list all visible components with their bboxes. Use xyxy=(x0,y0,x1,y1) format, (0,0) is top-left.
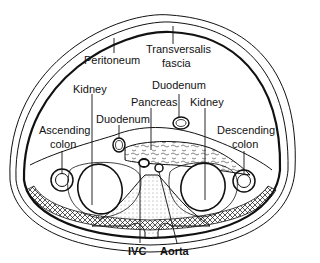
label-duodenum-top: Duodenum xyxy=(152,79,206,91)
label-kidney-right: Kidney xyxy=(190,96,224,108)
label-ivc: IVC xyxy=(128,245,146,257)
label-duodenum-left: Duodenum xyxy=(96,113,150,125)
label-pancreas: Pancreas xyxy=(131,96,177,108)
label-peritoneum: Peritoneum xyxy=(84,54,140,66)
label-ascending-colon: colon xyxy=(50,138,76,150)
label-kidney-left: Kidney xyxy=(73,83,107,95)
label-transversalis: Transversalis xyxy=(146,43,211,55)
ivc-shape xyxy=(139,159,149,167)
label-ascending: Ascending xyxy=(39,124,90,136)
label-descending: Descending xyxy=(217,124,275,136)
aorta-shape xyxy=(155,164,163,172)
label-aorta: Aorta xyxy=(160,245,189,257)
label-descending-colon: colon xyxy=(232,138,258,150)
label-fascia: fascia xyxy=(162,57,191,69)
